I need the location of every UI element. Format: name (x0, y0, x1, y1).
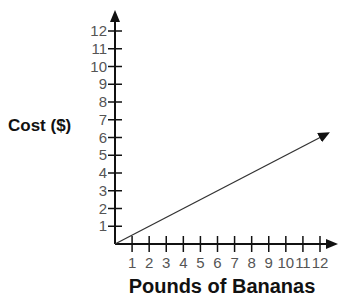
x-tick-label: 6 (213, 254, 221, 271)
y-axis-title: Cost ($) (8, 116, 71, 135)
x-tick-label: 2 (145, 254, 153, 271)
x-tick-label: 5 (196, 254, 204, 271)
x-tick-label: 8 (247, 254, 255, 271)
y-tick-label: 8 (99, 93, 107, 110)
y-tick-label: 12 (90, 22, 107, 39)
x-tick-label: 11 (295, 254, 311, 271)
y-tick-label: 10 (90, 58, 107, 75)
cost-line (115, 135, 325, 244)
y-tick-label: 11 (91, 40, 107, 57)
x-axis-title: Pounds of Bananas (129, 275, 316, 297)
x-tick-label: 3 (162, 254, 170, 271)
y-tick-label: 7 (99, 111, 107, 128)
x-tick-label: 9 (265, 254, 273, 271)
x-tick-label: 4 (179, 254, 187, 271)
y-tick-label: 9 (99, 75, 107, 92)
chart: 123456789101112 123456789101112 Cost ($)… (0, 0, 343, 304)
x-axis-arrow-icon (326, 239, 338, 249)
y-tick-label: 4 (99, 164, 107, 181)
x-tick-label: 10 (277, 254, 294, 271)
y-tick-label: 6 (99, 129, 107, 146)
x-tick-label: 1 (128, 254, 136, 271)
y-tick-label: 2 (99, 200, 107, 217)
y-tick-label: 1 (99, 217, 107, 234)
y-axis-arrow-icon (110, 10, 120, 22)
y-tick-label: 5 (99, 146, 107, 163)
x-tick-label: 12 (312, 254, 329, 271)
y-tick-label: 3 (99, 182, 107, 199)
x-tick-label: 7 (230, 254, 238, 271)
